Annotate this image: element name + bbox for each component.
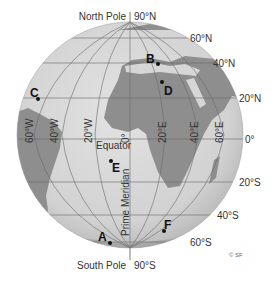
point-a-marker xyxy=(108,241,112,245)
lat-label-0: 0° xyxy=(245,134,255,145)
lon-label-40e: 40°E xyxy=(189,121,200,143)
north-pole-lat-label: 90°N xyxy=(134,11,156,22)
point-b-label: B xyxy=(146,52,155,66)
prime-meridian-label: Prime Meridian xyxy=(120,169,131,236)
point-c-label: C xyxy=(30,86,39,100)
lat-label-40s: 40°S xyxy=(217,210,239,221)
point-d-label: D xyxy=(164,84,173,98)
south-pole-label: South Pole xyxy=(77,260,126,271)
lat-label-60n: 60°N xyxy=(190,33,212,44)
lat-label-60s: 60°S xyxy=(190,237,212,248)
lon-label-40w: 40°W xyxy=(49,118,60,143)
point-e-label: E xyxy=(112,161,120,175)
globe-diagram: North Pole 90°N South Pole 90°S 60°N 40°… xyxy=(0,0,275,286)
lon-label-60e: 60°E xyxy=(214,121,225,143)
south-pole-lat-label: 90°S xyxy=(134,260,156,271)
north-pole-label: North Pole xyxy=(79,11,127,22)
lat-label-20s: 20°S xyxy=(239,177,261,188)
lat-label-40n: 40°N xyxy=(213,58,235,69)
lat-label-20n: 20°N xyxy=(239,93,261,104)
point-f: F xyxy=(162,218,171,233)
lon-label-60w: 60°W xyxy=(24,118,35,143)
point-a-label: A xyxy=(98,230,107,244)
point-b-marker xyxy=(156,62,160,66)
point-c: C xyxy=(30,86,40,101)
lon-label-20w: 20°W xyxy=(83,118,94,143)
lon-label-20e: 20°E xyxy=(157,121,168,143)
copyright-label: © SF xyxy=(229,252,243,258)
equator-label: Equator xyxy=(96,140,132,151)
point-f-label: F xyxy=(164,218,171,232)
